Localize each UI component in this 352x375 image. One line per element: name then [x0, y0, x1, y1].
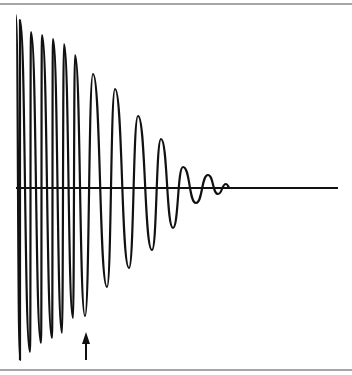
- damped-oscillation-figure: [0, 0, 352, 375]
- arrow-up-icon: [82, 332, 90, 360]
- waveform-diagram: [0, 0, 352, 375]
